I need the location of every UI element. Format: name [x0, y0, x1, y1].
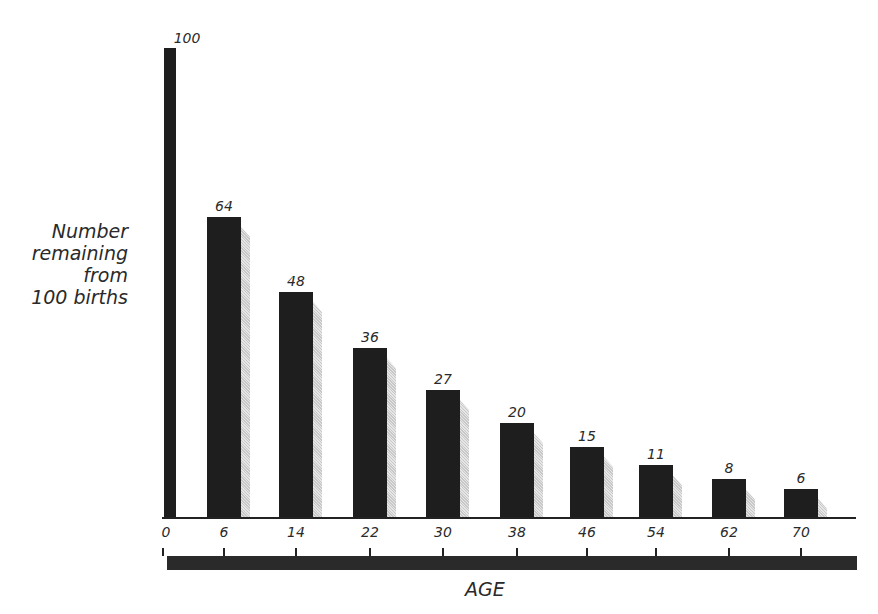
bar-age-46: [570, 447, 604, 517]
x-tick-mark: [442, 548, 444, 556]
bar-value-label: 6: [781, 470, 821, 486]
x-tick-mark: [162, 548, 164, 556]
bar-shadow: [313, 302, 322, 517]
bar-value-label: 100: [172, 30, 202, 46]
x-tick-label: 70: [781, 524, 821, 540]
y-axis-label-line-2: remaining: [10, 242, 128, 264]
bar-age-0: [164, 48, 176, 517]
bar-age-6: [207, 217, 241, 517]
bar-shadow: [387, 358, 396, 517]
bar-age-22: [353, 348, 387, 517]
bar-age-54: [639, 465, 673, 517]
x-tick-mark: [800, 548, 802, 556]
bar-shadow: [746, 489, 755, 517]
y-axis-label-line-3: from: [10, 264, 128, 286]
bar-value-label: 20: [497, 404, 537, 420]
bar-age-38: [500, 423, 534, 517]
bar-shadow: [604, 457, 613, 517]
x-tick-mark: [516, 548, 518, 556]
y-axis-label-line-1: Number: [10, 220, 128, 242]
x-axis-baseline: [162, 517, 856, 519]
bar-value-label: 36: [350, 329, 390, 345]
bar-value-label: 15: [567, 428, 607, 444]
bar-shadow: [241, 227, 250, 517]
x-tick-label: 38: [497, 524, 537, 540]
bar-age-62: [712, 479, 746, 517]
bar-value-label: 48: [276, 273, 316, 289]
x-tick-label: 22: [350, 524, 390, 540]
x-tick-label: 62: [709, 524, 749, 540]
x-tick-mark: [586, 548, 588, 556]
bar-age-14: [279, 292, 313, 517]
x-tick-label: 6: [204, 524, 244, 540]
x-tick-mark: [223, 548, 225, 556]
bar-shadow: [534, 433, 543, 517]
x-tick-mark: [655, 548, 657, 556]
x-tick-mark: [728, 548, 730, 556]
bar-value-label: 8: [709, 460, 749, 476]
x-tick-mark: [295, 548, 297, 556]
x-tick-mark: [369, 548, 371, 556]
bar-shadow: [460, 400, 469, 517]
bar-shadow: [673, 475, 682, 517]
bar-shadow: [818, 499, 827, 517]
bar-value-label: 11: [636, 446, 676, 462]
bar-value-label: 64: [204, 198, 244, 214]
age-axis-bar: [167, 556, 857, 570]
bar-age-30: [426, 390, 460, 517]
bar-value-label: 27: [423, 371, 463, 387]
x-tick-label: 0: [146, 524, 186, 540]
y-axis-label-line-4: 100 births: [10, 286, 128, 308]
x-tick-label: 14: [276, 524, 316, 540]
x-tick-label: 30: [423, 524, 463, 540]
x-tick-label: 54: [636, 524, 676, 540]
y-axis-label: Number remaining from 100 births: [10, 220, 128, 308]
x-axis-label: AGE: [465, 578, 505, 600]
bar-age-70: [784, 489, 818, 517]
x-tick-label: 46: [567, 524, 607, 540]
